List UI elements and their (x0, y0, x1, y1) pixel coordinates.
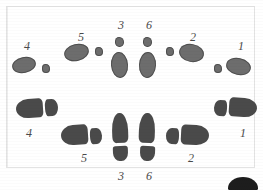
figure-canvas: 453621 453621 (0, 0, 263, 190)
scan-artifact-blob (228, 177, 258, 190)
label-shoe-1: 1 (240, 127, 246, 139)
label-pad-3: 3 (118, 19, 124, 31)
label-shoe-3: 3 (118, 170, 124, 182)
label-pad-6: 6 (146, 19, 152, 31)
pad-5-dot (95, 47, 103, 56)
label-shoe-2: 2 (188, 152, 194, 164)
label-shoe-4: 4 (26, 127, 32, 139)
pad-6-dot (143, 37, 152, 47)
shoe-5-sole-left (60, 124, 88, 146)
label-shoe-6: 6 (146, 170, 152, 182)
pad-4-dot (42, 64, 50, 73)
pad-1-dot (214, 64, 222, 73)
shoe-4-sole-left (15, 98, 43, 119)
paper-frame (6, 6, 255, 168)
pad-3-dot (115, 37, 124, 47)
shoe-6-sole-up (138, 113, 155, 144)
label-pad-5: 5 (78, 31, 84, 43)
pad-2-dot (166, 47, 174, 56)
shoe-2-heel-right (166, 128, 180, 145)
label-pad-4: 4 (24, 40, 30, 52)
label-pad-2: 2 (190, 31, 196, 43)
shoe-1-heel-right (213, 100, 227, 117)
label-pad-1: 1 (238, 40, 244, 52)
label-shoe-5: 5 (81, 152, 87, 164)
